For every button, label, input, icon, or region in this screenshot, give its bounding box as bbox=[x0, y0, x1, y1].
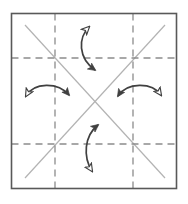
symmetry-diagram bbox=[0, 0, 188, 204]
figure-root bbox=[0, 0, 188, 204]
